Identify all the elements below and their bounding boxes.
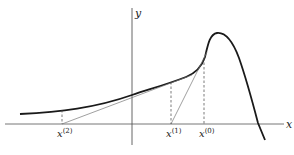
tangent-line-from-x0 — [171, 52, 207, 124]
tangent-line-from-x1 — [62, 75, 192, 124]
label-x2: x(2) — [57, 127, 73, 139]
newton-method-diagram: x y x(2) x(1) x(0) — [0, 0, 294, 155]
y-axis-label: y — [134, 7, 142, 20]
label-x0: x(0) — [199, 127, 215, 139]
x-axis-label: x — [286, 118, 293, 131]
label-x1: x(1) — [166, 127, 182, 139]
